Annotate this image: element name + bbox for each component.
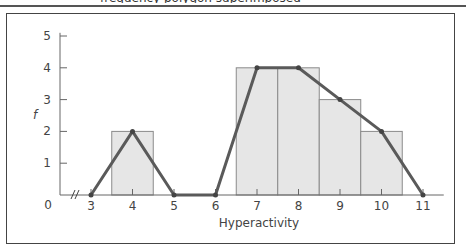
x-tick-label: 10 xyxy=(374,199,389,213)
polygon-point xyxy=(89,193,94,198)
polygon-point xyxy=(338,97,343,102)
histogram-bar xyxy=(112,131,154,195)
x-tick-label: 4 xyxy=(129,199,137,213)
polygon-point xyxy=(213,193,218,198)
histogram-chart: 01234534567891011Hyperactivityf xyxy=(0,0,466,251)
histogram-bar xyxy=(319,100,361,195)
y-tick-label: 3 xyxy=(43,93,51,107)
y-tick-label: 2 xyxy=(43,124,51,138)
histogram-bar xyxy=(361,131,403,195)
y-tick-label: 0 xyxy=(44,198,52,212)
x-tick-label: 3 xyxy=(87,199,95,213)
y-axis-label: f xyxy=(33,108,39,122)
x-tick-label: 9 xyxy=(336,199,344,213)
y-tick-label: 1 xyxy=(43,156,51,170)
polygon-point xyxy=(379,129,384,134)
histogram-bar xyxy=(236,68,278,195)
x-tick-label: 7 xyxy=(253,199,261,213)
x-tick-label: 6 xyxy=(212,199,220,213)
x-tick-label: 8 xyxy=(295,199,303,213)
histogram-bar xyxy=(278,68,320,195)
polygon-point xyxy=(296,65,301,70)
x-axis-label: Hyperactivity xyxy=(219,216,299,230)
y-tick-label: 4 xyxy=(43,61,51,75)
x-tick-label: 11 xyxy=(415,199,430,213)
polygon-point xyxy=(130,129,135,134)
polygon-point xyxy=(172,193,177,198)
y-tick-label: 5 xyxy=(43,29,51,43)
polygon-point xyxy=(421,193,426,198)
polygon-point xyxy=(255,65,260,70)
x-tick-label: 5 xyxy=(170,199,178,213)
